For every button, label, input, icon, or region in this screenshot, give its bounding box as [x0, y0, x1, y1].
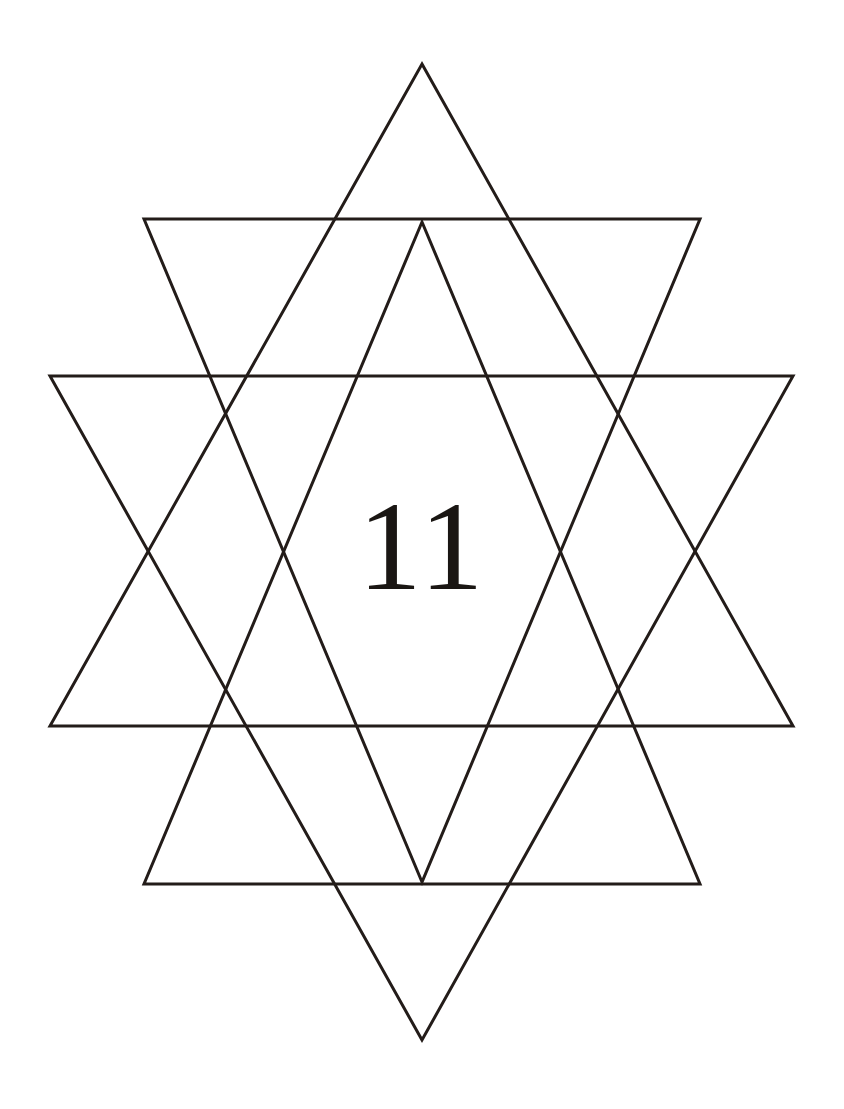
figure-page: 11: [0, 0, 844, 1109]
figure-number-label: 11: [0, 482, 844, 610]
